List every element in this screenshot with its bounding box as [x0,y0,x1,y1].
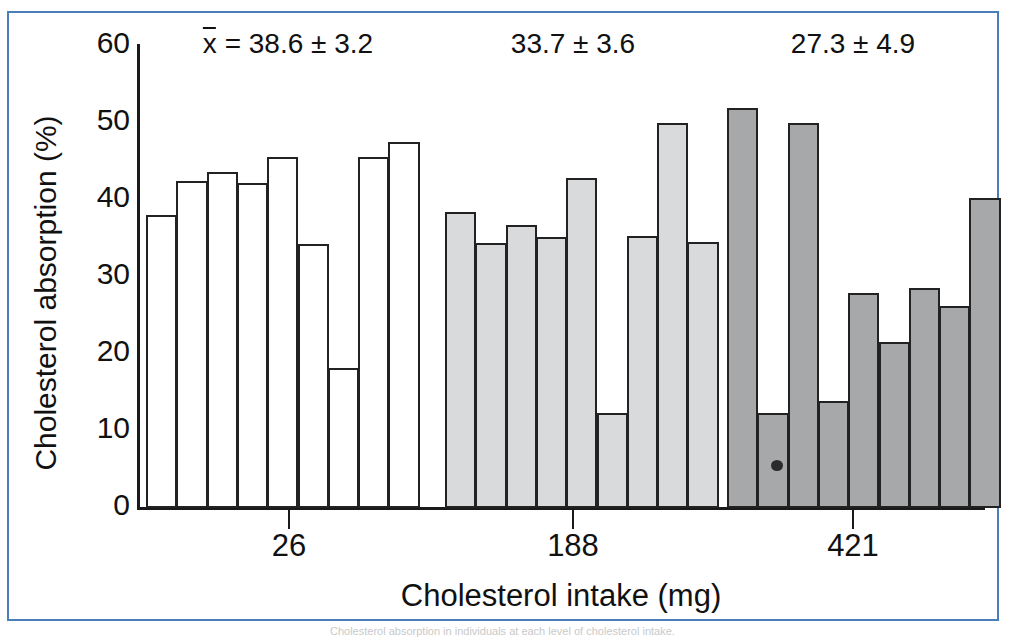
bar-188-9 [687,242,718,508]
bars-layer [0,0,1021,508]
stat-annotation-26: x = 38.6 ± 3.2 [203,28,373,60]
bar-421-4 [818,401,849,508]
x-tick-421 [852,509,854,529]
page-bleed-text: Cholesterol absorption in individuals at… [330,625,1010,637]
bar-421-7 [909,288,940,508]
bar-188-3 [506,225,537,508]
bar-188-7 [627,236,658,508]
bar-188-6 [597,413,628,508]
y-axis-title: Cholesterol absorption (%) [29,33,63,553]
bar-188-4 [536,237,567,508]
bar-421-5 [848,293,879,508]
figure-container: 0 10 20 30 40 50 60 26 188 421 x = 38.6 … [0,0,1021,641]
bar-188-8 [657,123,688,508]
bar-26-5 [267,157,298,508]
bar-26-6 [298,244,329,508]
bar-421-8 [939,306,970,508]
bar-26-2 [176,181,207,508]
bar-26-1 [146,215,177,508]
x-tick-label-26: 26 [272,528,306,564]
bar-26-3 [207,172,238,508]
bar-26-7 [328,368,359,508]
bar-421-6 [879,342,910,508]
bar-188-1 [445,212,476,508]
bar-188-5 [566,178,597,508]
x-tick-label-188: 188 [547,528,599,564]
x-bar-symbol: x [203,28,217,60]
stat-annotation-188: 33.7 ± 3.6 [511,28,635,60]
stat-annotation-26-text: = 38.6 ± 3.2 [217,28,373,59]
plot-area: 0 10 20 30 40 50 60 26 188 421 x = 38.6 … [0,0,1021,641]
bar-26-9 [388,142,419,508]
bar-26-8 [358,157,389,508]
bar-421-9 [969,198,1000,508]
x-tick-label-421: 421 [827,528,879,564]
bar-26-4 [237,183,268,508]
print-artifact-dot [771,460,783,471]
x-tick-188 [572,509,574,529]
x-axis-title: Cholesterol intake (mg) [137,578,985,614]
bar-421-3 [788,123,819,508]
bar-421-1 [727,108,758,508]
x-tick-26 [288,509,290,529]
stat-annotation-421: 27.3 ± 4.9 [791,28,915,60]
bar-188-2 [475,243,506,508]
